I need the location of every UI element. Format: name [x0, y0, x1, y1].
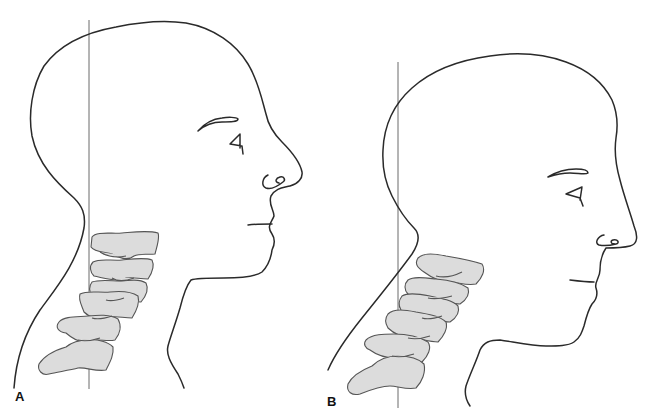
- panel-a: [14, 20, 302, 389]
- nostril-b: [597, 235, 618, 245]
- illustration-canvas: [0, 0, 654, 418]
- panel-b: [328, 54, 637, 408]
- mouth-b: [570, 280, 594, 282]
- face-details-b: [548, 169, 618, 282]
- cervical-vertebrae-a: [39, 231, 159, 374]
- cervical-vertebrae-b: [348, 254, 484, 395]
- nostril-a: [263, 175, 285, 189]
- panel-label-b: B: [327, 394, 336, 409]
- head-outline-a: [14, 22, 302, 388]
- eyebrow-a: [198, 117, 238, 131]
- eye-b: [566, 187, 583, 206]
- panel-label-a: A: [15, 389, 24, 404]
- mouth-a: [248, 224, 272, 225]
- eyebrow-b: [548, 169, 588, 177]
- eye-a: [230, 134, 243, 154]
